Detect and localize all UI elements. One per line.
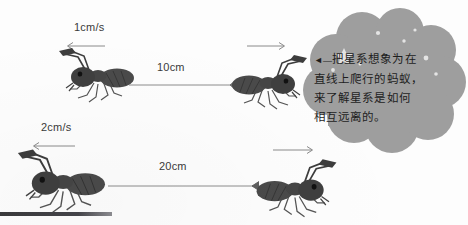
- cloud-line-2: 直线上爬行的蚂蚁，: [314, 73, 423, 85]
- ant-top-right: [228, 52, 310, 118]
- bottom-distance-label: 20cm: [159, 160, 187, 172]
- bottom-edge-bar: [0, 212, 112, 216]
- cloud-callout-text: ◄—把星系想象为在 直线上爬行的蚂蚁， 来了解星系是如何 相互远离的。: [314, 50, 456, 127]
- bottom-left-speed-label: 2cm/s: [41, 121, 71, 133]
- top-left-speed-label: 1cm/s: [74, 21, 104, 33]
- cloud-callout: ◄—把星系想象为在 直线上爬行的蚂蚁， 来了解星系是如何 相互远离的。: [300, 8, 468, 158]
- figure-canvas: 1cm/s 10cm: [0, 0, 468, 225]
- cloud-caret: ◄—: [314, 55, 332, 65]
- cloud-line-4: 相互远离的。: [314, 111, 387, 123]
- cloud-line-1: 把星系想象为在: [332, 53, 417, 65]
- top-right-velocity-arrow: [247, 41, 291, 51]
- cloud-line-3: 来了解星系是如何: [314, 92, 411, 104]
- ant-bottom-right: [252, 156, 340, 225]
- bottom-distance-line: [108, 181, 260, 191]
- top-distance-line: [129, 80, 236, 90]
- ant-bottom-left: [8, 146, 116, 222]
- ant-top-left: [56, 45, 138, 111]
- top-distance-label: 10cm: [157, 61, 185, 73]
